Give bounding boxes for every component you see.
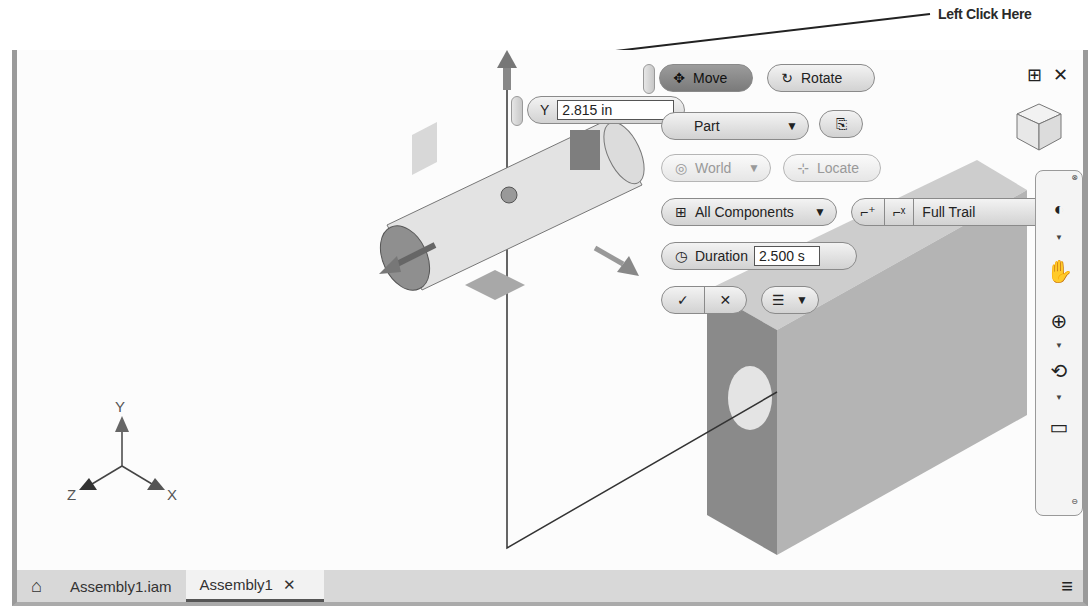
zoom-icon[interactable]: ⊕ (1036, 309, 1082, 333)
split-view-icon[interactable]: ⊞ (1027, 64, 1042, 86)
orbit-icon[interactable]: ⟲ (1036, 359, 1082, 383)
components-icon: ⊞ (672, 203, 690, 221)
chevron-down-icon: ▼ (780, 119, 798, 133)
view-face-icon[interactable]: ▭ (1036, 415, 1082, 439)
chevron-down-icon: ▼ (742, 161, 760, 175)
locate-button[interactable]: ⊹ Locate (783, 154, 881, 182)
options-menu-button[interactable]: ☰ ▼ (761, 286, 819, 314)
triad-y-label: Y (115, 398, 125, 415)
y-drag-arrow (497, 50, 517, 68)
triad-icon (79, 416, 165, 490)
delete-trail-button[interactable]: ⌐ˣ (885, 199, 915, 225)
chevron-down-icon[interactable]: ▼ (1036, 393, 1082, 402)
manipulator-center (501, 187, 517, 203)
navbar-close-icon[interactable]: ⊗ (1036, 173, 1082, 182)
navigation-bar: ⊗ ◐ ▼ ✋ ⊕ ▼ ⟲ ▼ ▭ ⊖ (1035, 170, 1083, 516)
components-filter-dropdown[interactable]: ⊞ All Components ▼ (661, 198, 837, 226)
cancel-button[interactable]: ✕ (705, 287, 747, 313)
world-icon: ◎ (672, 159, 690, 177)
coordinate-space-dropdown[interactable]: ◎ World ▼ (661, 154, 771, 182)
steering-wheel-icon[interactable]: ◐ (1036, 199, 1082, 220)
viewcube-icon[interactable] (1013, 100, 1065, 156)
chevron-down-icon: ▼ (793, 293, 808, 307)
clock-icon: ◷ (672, 247, 690, 265)
chevron-down-icon: ▼ (808, 205, 826, 219)
tab-assembly1[interactable]: Assembly1 ✕ (186, 570, 324, 602)
y-field-grip[interactable] (511, 96, 523, 126)
pan-icon[interactable]: ✋ (1036, 259, 1082, 285)
locate-icon: ⊹ (794, 159, 812, 177)
add-trail-button[interactable]: ⌐⁺ (852, 199, 885, 225)
transparent-toggle-button[interactable]: ⎘ (819, 110, 863, 138)
list-icon: ☰ (772, 292, 785, 308)
navbar-options-icon[interactable]: ⊖ (1036, 497, 1082, 506)
close-tab-icon[interactable]: ✕ (283, 576, 296, 594)
graphics-viewport[interactable]: Y Z X ✥ Move ↻ Rotate Y 2.815 in Part ▼ … (12, 50, 1088, 570)
duration-input[interactable]: 2.500 s (754, 246, 820, 266)
ok-button[interactable]: ✓ (662, 287, 705, 313)
minitoolbar-grip[interactable] (643, 64, 655, 94)
tab-assembly1-iam[interactable]: Assembly1.iam (56, 570, 186, 602)
select-filter-dropdown[interactable]: Part ▼ (661, 112, 809, 140)
move-icon: ✥ (670, 69, 688, 87)
rotate-icon: ↻ (778, 69, 796, 87)
triad-x-label: X (167, 486, 177, 503)
document-tab-bar: ⌂ Assembly1.iam Assembly1 ✕ ≡ (12, 570, 1088, 606)
home-icon[interactable]: ⌂ (17, 570, 56, 602)
move-button[interactable]: ✥ Move (659, 64, 753, 92)
chevron-down-icon[interactable]: ▼ (1036, 233, 1082, 242)
ok-cancel-group: ✓ ✕ (661, 286, 747, 314)
chevron-down-icon[interactable]: ▼ (1036, 341, 1082, 350)
y-value-input[interactable]: 2.815 in (557, 100, 674, 120)
triad-z-label: Z (67, 486, 76, 503)
rotate-button[interactable]: ↻ Rotate (767, 64, 875, 92)
duration-field[interactable]: ◷ Duration 2.500 s (661, 242, 857, 270)
prioritize-icon: ⎘ (836, 116, 847, 133)
tab-menu-icon[interactable]: ≡ (1061, 575, 1073, 598)
close-view-icon[interactable]: ✕ (1053, 64, 1068, 86)
